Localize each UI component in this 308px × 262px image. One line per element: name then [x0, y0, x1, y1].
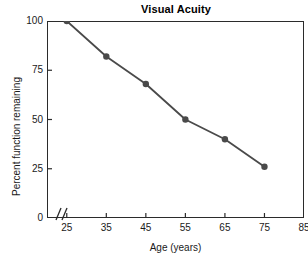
y-tick-label: 100 — [13, 16, 43, 26]
data-point-marker — [143, 81, 149, 87]
x-axis-tick-labels: 25354555657585 — [0, 222, 308, 236]
x-axis-ticks — [67, 213, 304, 218]
axis-break-icon — [53, 206, 71, 222]
data-point-marker — [222, 136, 228, 142]
x-tick-label: 55 — [170, 222, 200, 233]
x-tick-label: 45 — [131, 222, 161, 233]
x-tick-label: 75 — [249, 222, 279, 233]
y-axis-ticks — [47, 21, 52, 218]
data-point-marker — [261, 164, 267, 170]
y-axis-title: Percent function remaining — [11, 77, 22, 196]
data-line-series — [67, 21, 265, 167]
data-point-marker — [103, 53, 109, 59]
x-tick-label: 85 — [289, 222, 308, 233]
y-tick-label: 75 — [13, 65, 43, 75]
plot-data-layer — [47, 21, 304, 218]
data-point-marker — [182, 116, 188, 122]
x-tick-label: 35 — [91, 222, 121, 233]
x-axis-title: Age (years) — [47, 242, 304, 254]
x-tick-label: 25 — [52, 222, 82, 233]
chart-title: Visual Acuity — [47, 3, 305, 16]
x-tick-label: 65 — [210, 222, 240, 233]
visual-acuity-chart: Visual Acuity 0255075100 Percent functio… — [0, 0, 308, 262]
